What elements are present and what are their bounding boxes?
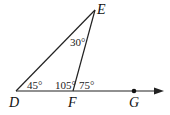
label-f: F bbox=[67, 95, 77, 110]
label-e: E bbox=[96, 2, 106, 17]
label-g: G bbox=[129, 95, 139, 110]
geometry-diagram: D E F G 45° 30° 105° 75° bbox=[0, 0, 170, 115]
label-d: D bbox=[8, 95, 19, 110]
point-g-dot bbox=[132, 89, 137, 94]
angle-d-label: 45° bbox=[27, 79, 42, 91]
angle-e-label: 30° bbox=[70, 36, 85, 48]
arrowhead-icon bbox=[154, 88, 164, 95]
angle-dfe-label: 105° bbox=[55, 79, 76, 91]
angle-efg-label: 75° bbox=[79, 79, 94, 91]
